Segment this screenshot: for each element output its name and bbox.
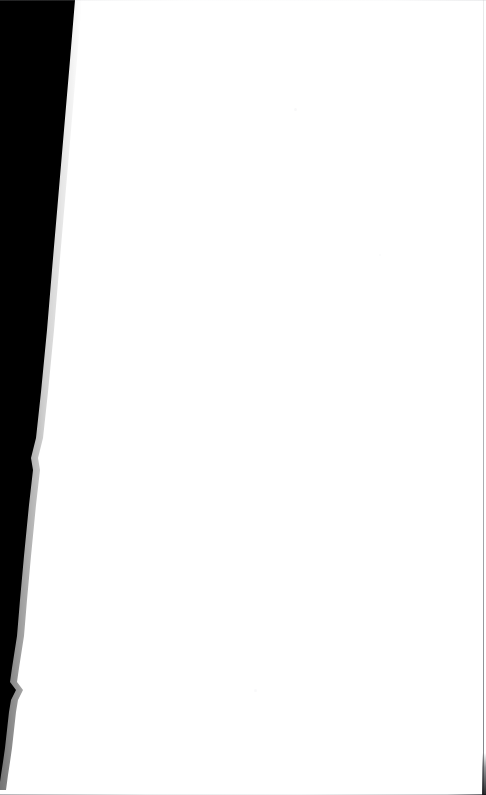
top-trim-edge — [0, 0, 486, 1]
page-text-content — [95, 40, 465, 750]
bottom-right-corner-nick — [482, 753, 486, 795]
right-trim-edge — [483, 0, 484, 795]
gutter-shadow-polygon — [0, 0, 75, 782]
scanned-page — [0, 0, 486, 795]
